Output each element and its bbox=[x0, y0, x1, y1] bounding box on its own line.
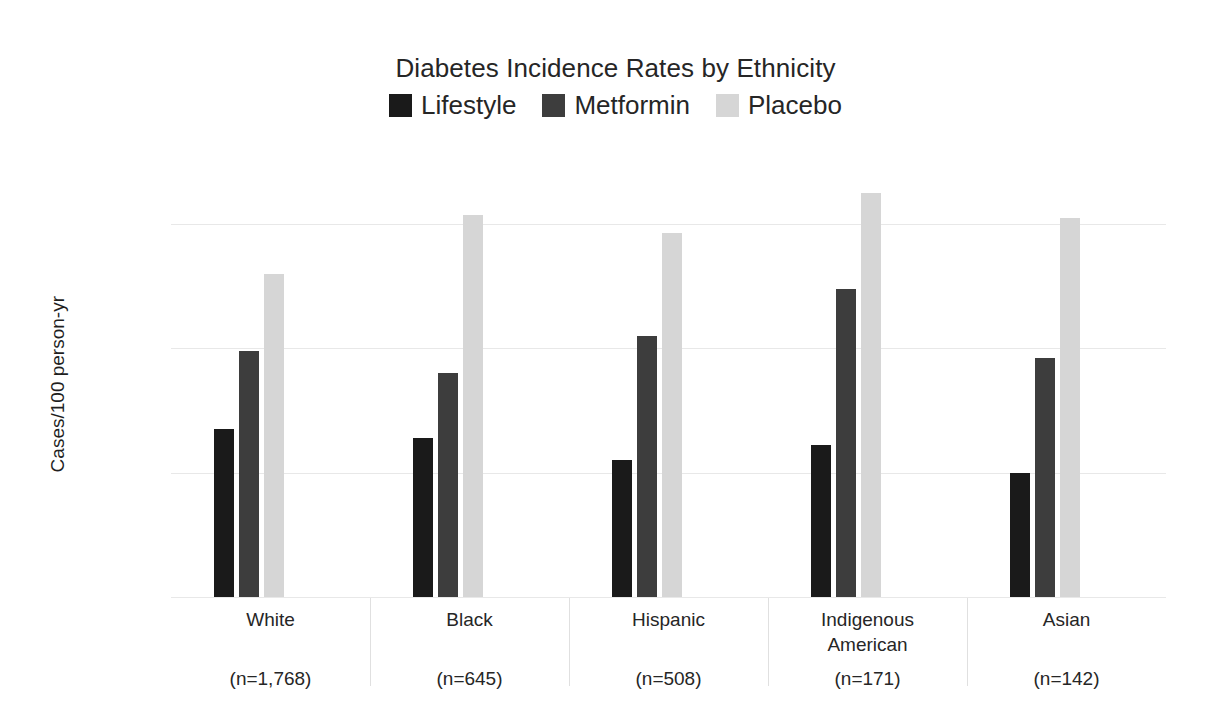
bar-lifestyle[interactable] bbox=[413, 438, 433, 597]
category-name: IndigenousAmerican bbox=[768, 598, 967, 657]
bar-metformin[interactable] bbox=[637, 336, 657, 597]
category-name: Black bbox=[370, 598, 569, 632]
category-sample-size: (n=1,768) bbox=[171, 632, 370, 691]
category-separator bbox=[967, 598, 968, 686]
bar-metformin[interactable] bbox=[239, 351, 259, 597]
legend-item-lifestyle: Lifestyle bbox=[389, 90, 516, 120]
bar-group bbox=[370, 224, 569, 597]
category-sample-size: (n=171) bbox=[768, 657, 967, 691]
bar-lifestyle[interactable] bbox=[1010, 473, 1030, 597]
bars bbox=[811, 193, 881, 597]
category-separator bbox=[370, 598, 371, 686]
bars bbox=[1010, 218, 1080, 597]
bar-lifestyle[interactable] bbox=[612, 460, 632, 597]
bars bbox=[612, 233, 682, 597]
chart-title: Diabetes Incidence Rates by Ethnicity bbox=[0, 52, 1231, 84]
x-axis-category: Asian(n=142) bbox=[967, 598, 1166, 691]
legend-label: Metformin bbox=[574, 90, 690, 120]
bar-metformin[interactable] bbox=[1035, 358, 1055, 597]
category-separator bbox=[569, 598, 570, 686]
bar-placebo[interactable] bbox=[1060, 218, 1080, 597]
bar-placebo[interactable] bbox=[861, 193, 881, 597]
legend-item-metformin: Metformin bbox=[542, 90, 690, 120]
category-name: Hispanic bbox=[569, 598, 768, 632]
legend-label: Placebo bbox=[748, 90, 842, 120]
bar-groups bbox=[171, 224, 1166, 597]
bar-placebo[interactable] bbox=[662, 233, 682, 597]
x-axis-category: Hispanic(n=508) bbox=[569, 598, 768, 691]
x-axis-category: IndigenousAmerican(n=171) bbox=[768, 598, 967, 691]
bar-lifestyle[interactable] bbox=[214, 429, 234, 597]
bar-placebo[interactable] bbox=[264, 274, 284, 597]
plot-area: 04812 bbox=[171, 224, 1166, 597]
bar-group bbox=[569, 224, 768, 597]
bar-group bbox=[768, 224, 967, 597]
category-name: Asian bbox=[967, 598, 1166, 632]
legend-item-placebo: Placebo bbox=[716, 90, 842, 120]
legend-label: Lifestyle bbox=[421, 90, 516, 120]
bars bbox=[413, 215, 483, 597]
legend-swatch-icon bbox=[542, 94, 565, 117]
legend-swatch-icon bbox=[389, 94, 412, 117]
x-axis-category: White(n=1,768) bbox=[171, 598, 370, 691]
bar-metformin[interactable] bbox=[836, 289, 856, 597]
chart-figure: Diabetes Incidence Rates by Ethnicity Li… bbox=[0, 0, 1231, 725]
chart-legend: LifestyleMetforminPlacebo bbox=[0, 90, 1231, 120]
x-axis-category: Black(n=645) bbox=[370, 598, 569, 691]
bar-placebo[interactable] bbox=[463, 215, 483, 597]
category-sample-size: (n=508) bbox=[569, 632, 768, 691]
y-axis-label: Cases/100 person-yr bbox=[47, 296, 69, 472]
legend-swatch-icon bbox=[716, 94, 739, 117]
category-sample-size: (n=142) bbox=[967, 632, 1166, 691]
bar-metformin[interactable] bbox=[438, 373, 458, 597]
title-and-legend: Diabetes Incidence Rates by Ethnicity Li… bbox=[0, 52, 1231, 120]
category-sample-size: (n=645) bbox=[370, 632, 569, 691]
bars bbox=[214, 274, 284, 597]
bar-lifestyle[interactable] bbox=[811, 445, 831, 597]
bar-group bbox=[171, 224, 370, 597]
x-axis-category-labels: White(n=1,768)Black(n=645)Hispanic(n=508… bbox=[171, 598, 1166, 698]
category-separator bbox=[768, 598, 769, 686]
bar-group bbox=[967, 224, 1166, 597]
category-name: White bbox=[171, 598, 370, 632]
